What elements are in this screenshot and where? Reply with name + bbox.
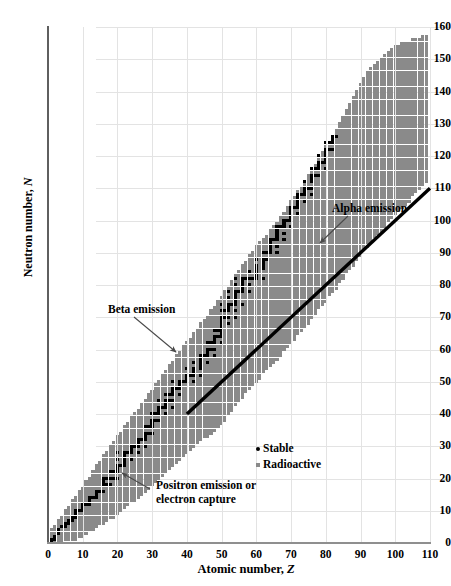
beta-arrow [134, 317, 176, 352]
y-axis-title: Neutron number, N [21, 148, 36, 308]
x-axis-title-symbol: Z [287, 562, 295, 576]
alpha-emission-label: Alpha emission [332, 202, 407, 216]
legend-label-radioactive: Radioactive [263, 458, 321, 470]
positron-label-line2: electron capture [156, 493, 236, 505]
legend-item-stable: Stable [256, 440, 321, 456]
y-axis-title-text: Neutron number, [21, 186, 35, 277]
legend-item-radioactive: Radioactive [256, 456, 321, 472]
alpha-arrow [320, 216, 348, 243]
nuclide-chart-figure: 0102030405060708090100110120130140150160… [0, 0, 451, 586]
positron-emission-label: Positron emission or electron capture [156, 479, 260, 506]
legend-label-stable: Stable [263, 442, 294, 454]
x-axis-title: Atomic number, Z [96, 562, 396, 577]
beta-emission-label: Beta emission [108, 303, 175, 317]
x-axis-title-text: Atomic number, [197, 562, 286, 576]
positron-arrow [122, 473, 150, 489]
y-axis-title-symbol: N [21, 178, 35, 187]
legend: Stable Radioactive [256, 440, 321, 473]
positron-label-line1: Positron emission or [156, 479, 256, 491]
radioactive-marker-icon [256, 463, 260, 467]
stable-marker-icon [256, 447, 260, 451]
